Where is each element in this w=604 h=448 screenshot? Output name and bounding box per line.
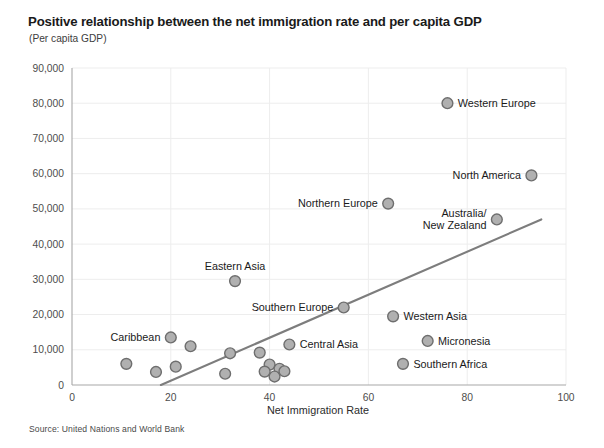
y-tick-label: 70,000	[33, 133, 65, 144]
data-point-label: North America	[453, 169, 521, 181]
data-point-marker	[383, 198, 394, 209]
scatter-plot: 010,00020,00030,00040,00050,00060,00070,…	[0, 0, 604, 448]
y-axis-tick-labels: 010,00020,00030,00040,00050,00060,00070,…	[33, 63, 65, 391]
y-tick-label: 50,000	[33, 203, 65, 214]
data-point-label: Australia/New Zealand	[423, 207, 487, 231]
x-tick-label: 60	[363, 392, 375, 403]
y-tick-label: 20,000	[33, 309, 65, 320]
y-tick-label: 10,000	[33, 344, 65, 355]
data-point-marker	[422, 336, 433, 347]
x-tick-label: 20	[165, 392, 177, 403]
data-point-marker	[259, 366, 270, 377]
data-point-label: Central Asia	[300, 338, 358, 350]
data-point-label: Caribbean	[111, 331, 161, 343]
x-tick-label: 40	[264, 392, 276, 403]
data-point-labels: Western EuropeNorth AmericaNorthern Euro…	[111, 97, 536, 370]
data-point-marker	[121, 358, 132, 369]
data-point-label: Eastern Asia	[205, 260, 266, 272]
data-point-label: Southern Africa	[413, 358, 487, 370]
x-tick-label: 100	[557, 392, 574, 403]
data-point-label: Northern Europe	[298, 197, 378, 209]
y-tick-label: 40,000	[33, 239, 65, 250]
data-point-label: Western Europe	[458, 97, 536, 109]
data-point-label: Micronesia	[438, 335, 490, 347]
data-point-label: Southern Europe	[252, 301, 334, 313]
x-tick-label: 0	[69, 392, 75, 403]
data-point-marker	[279, 366, 290, 377]
data-point-marker	[254, 347, 265, 358]
x-axis-tick-labels: 020406080100	[69, 392, 575, 403]
y-tick-label: 0	[58, 380, 64, 391]
data-point-marker	[388, 311, 399, 322]
data-point-marker	[398, 358, 409, 369]
data-point-marker	[220, 368, 231, 379]
data-point-marker	[269, 371, 280, 382]
data-point-marker	[225, 348, 236, 359]
data-point-label: Western Asia	[404, 310, 467, 322]
y-tick-label: 30,000	[33, 274, 65, 285]
y-tick-label: 80,000	[33, 98, 65, 109]
data-point-marker	[442, 98, 453, 109]
y-tick-label: 60,000	[33, 168, 65, 179]
data-point-marker	[170, 361, 181, 372]
y-tick-label: 90,000	[33, 63, 65, 74]
data-point-marker	[165, 332, 176, 343]
data-point-marker	[338, 302, 349, 313]
x-axis-title: Net Immigration Rate	[267, 404, 369, 416]
data-point-marker	[284, 339, 295, 350]
data-point-marker	[151, 367, 162, 378]
data-point-marker	[230, 276, 241, 287]
chart-figure: Positive relationship between the net im…	[0, 0, 604, 448]
x-tick-label: 80	[461, 392, 473, 403]
data-point-marker	[526, 170, 537, 181]
data-point-marker	[185, 341, 196, 352]
data-point-marker	[491, 214, 502, 225]
chart-source-note: Source: United Nations and World Bank	[29, 424, 184, 434]
